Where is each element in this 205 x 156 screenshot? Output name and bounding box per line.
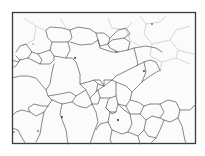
grain-micrograph xyxy=(0,0,205,156)
micrograph-frame xyxy=(13,13,196,144)
